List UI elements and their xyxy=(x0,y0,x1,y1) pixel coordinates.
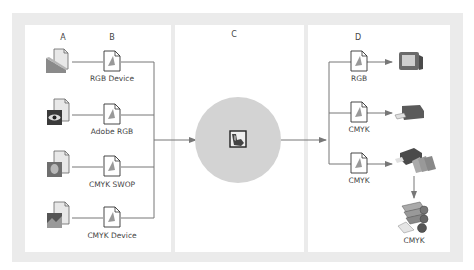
output-profile-label: CMYK xyxy=(348,176,369,185)
printing-press-icon xyxy=(396,200,432,238)
profile-label: CMYK Device xyxy=(87,231,136,240)
eye-image-document-icon xyxy=(46,98,74,132)
profile-document-icon xyxy=(103,103,121,129)
portrait-image-document-icon xyxy=(46,150,74,184)
output-profile-label: CMYK xyxy=(348,125,369,134)
profile-document-icon xyxy=(350,152,368,178)
profile-document-icon xyxy=(350,50,368,76)
profile-document-icon xyxy=(103,206,121,232)
monitor-icon xyxy=(398,51,424,77)
desktop-printer-icon xyxy=(394,103,426,127)
profile-document-icon xyxy=(103,155,121,181)
profile-label: RGB Device xyxy=(90,74,134,83)
profile-label: CMYK SWOP xyxy=(89,180,135,189)
press-label: CMYK xyxy=(403,236,424,245)
proof-printer-icon xyxy=(394,147,440,181)
scanner-document-icon xyxy=(44,48,74,80)
color-management-engine-icon xyxy=(229,130,247,152)
landscape-image-document-icon xyxy=(46,201,74,235)
profile-document-icon xyxy=(350,101,368,127)
profile-label: Adobe RGB xyxy=(91,127,133,136)
profile-document-icon xyxy=(103,50,121,76)
output-profile-label: RGB xyxy=(351,74,367,83)
